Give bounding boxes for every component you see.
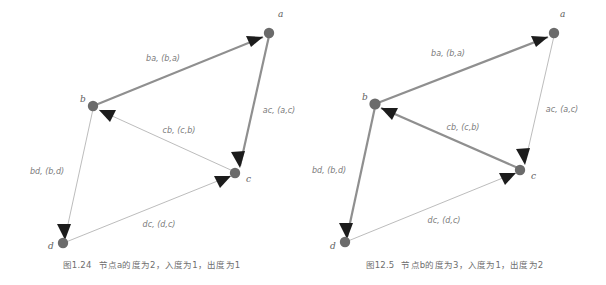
edge-label-ac: ac, (a,c) <box>263 106 295 115</box>
edge-cb-line <box>99 110 233 171</box>
edge-bd-arrowhead <box>57 224 71 240</box>
node-label-a: a <box>560 9 565 19</box>
node-c <box>515 165 525 175</box>
node-b <box>88 101 98 111</box>
edge-label-dc: dc, (d,c) <box>143 220 176 229</box>
edge-ba-line <box>93 37 263 106</box>
edge-cb-line <box>381 108 518 168</box>
caption-text-left: 节点a的度为2，入度为1，出度为1 <box>99 260 241 270</box>
edge-label-cb: cb, (c,b) <box>163 126 196 135</box>
edge-cb-arrowhead <box>99 110 116 122</box>
edge-ba-arrowhead <box>246 36 263 47</box>
node-label-c: c <box>246 174 251 184</box>
directed-graph-right: a b c d ba, (b,a) ac, (a,c) cb, (c,b) bd… <box>303 0 606 256</box>
node-label-a: a <box>278 9 283 19</box>
edge-label-ba: ba, (b,a) <box>431 49 465 58</box>
figure-1-24-panel: a b c d ba, (b,a) ac, (a,c) cb, (c,b) bd… <box>0 0 303 285</box>
edge-ba-arrowhead <box>531 36 548 47</box>
figure-caption-right: 图12.5节点b的度为3，入度为1，出度为2 <box>303 258 606 270</box>
caption-text-right: 节点b的度为3，入度为1，出度为2 <box>401 260 543 270</box>
node-d <box>58 238 68 248</box>
node-label-b: b <box>80 94 86 104</box>
edge-dc-arrowhead <box>214 176 231 188</box>
edge-label-ac: ac, (a,c) <box>546 105 578 114</box>
edge-bd-arrowhead <box>339 223 353 239</box>
node-a <box>264 28 274 38</box>
edge-label-bd: bd, (b,d) <box>312 166 346 175</box>
node-d <box>340 237 350 247</box>
figure-pair-page: a b c d ba, (b,a) ac, (a,c) cb, (c,b) bd… <box>0 0 606 285</box>
edges-group-right <box>339 36 554 241</box>
edge-label-dc: dc, (d,c) <box>428 216 461 225</box>
node-c <box>230 168 240 178</box>
edge-ac-arrowhead <box>516 148 530 165</box>
caption-number-right: 图12.5 <box>366 260 395 270</box>
edge-bd-line <box>347 107 375 237</box>
edges-group-left <box>57 36 269 242</box>
edge-ba-line <box>375 37 548 104</box>
caption-number-left: 图1.24 <box>63 260 92 270</box>
edge-dc-arrowhead <box>499 173 516 185</box>
edge-bd-line <box>65 109 93 238</box>
directed-graph-left: a b c d ba, (b,a) ac, (a,c) cb, (c,b) bd… <box>0 0 303 256</box>
node-label-c: c <box>531 171 536 181</box>
edge-ac-line <box>525 36 554 163</box>
edge-dc-line <box>348 173 515 241</box>
node-a <box>549 28 559 38</box>
node-label-d: d <box>48 241 54 251</box>
node-label-b: b <box>362 92 368 102</box>
figure-caption-left: 图1.24节点a的度为2，入度为1，出度为1 <box>0 258 303 270</box>
edge-dc-line <box>66 176 230 242</box>
edge-ac-line <box>240 36 269 166</box>
edge-label-bd: bd, (b,d) <box>30 167 64 176</box>
edge-label-ba: ba, (b,a) <box>146 54 180 63</box>
node-label-d: d <box>330 241 336 251</box>
node-b <box>369 98 380 109</box>
edge-label-cb: cb, (c,b) <box>447 123 480 132</box>
figure-12-5-panel: a b c d ba, (b,a) ac, (a,c) cb, (c,b) bd… <box>303 0 606 285</box>
edge-ac-arrowhead <box>231 151 245 168</box>
